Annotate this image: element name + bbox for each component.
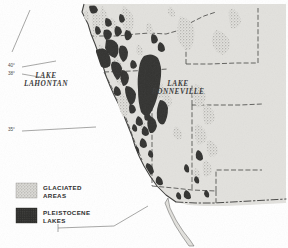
glaciated-areas-legend-label: GLACIATED AREAS (43, 184, 82, 199)
pleistocene-lakes-map: LAKE LAHONTAN LAKE BONNEVILLE 40° 38° 35… (0, 0, 288, 248)
lake-bonneville-label: LAKE BONNEVILLE (140, 80, 216, 96)
lat-40-label: 40° (8, 63, 15, 68)
lat-35-leader (22, 127, 96, 131)
pleistocene-swatch (16, 208, 37, 223)
pleistocene-lakes-legend-label: PLEISTOCENE LAKES (43, 209, 90, 224)
lat-40-leader (22, 61, 56, 67)
meridian-line (12, 10, 30, 52)
legend-swatches (16, 183, 37, 223)
lake-lahontan-label: LAKE LAHONTAN (14, 72, 78, 88)
lat-35-label: 35° (8, 127, 15, 132)
glaciated-swatch (16, 183, 37, 198)
lat-38-label: 38° (8, 71, 15, 76)
